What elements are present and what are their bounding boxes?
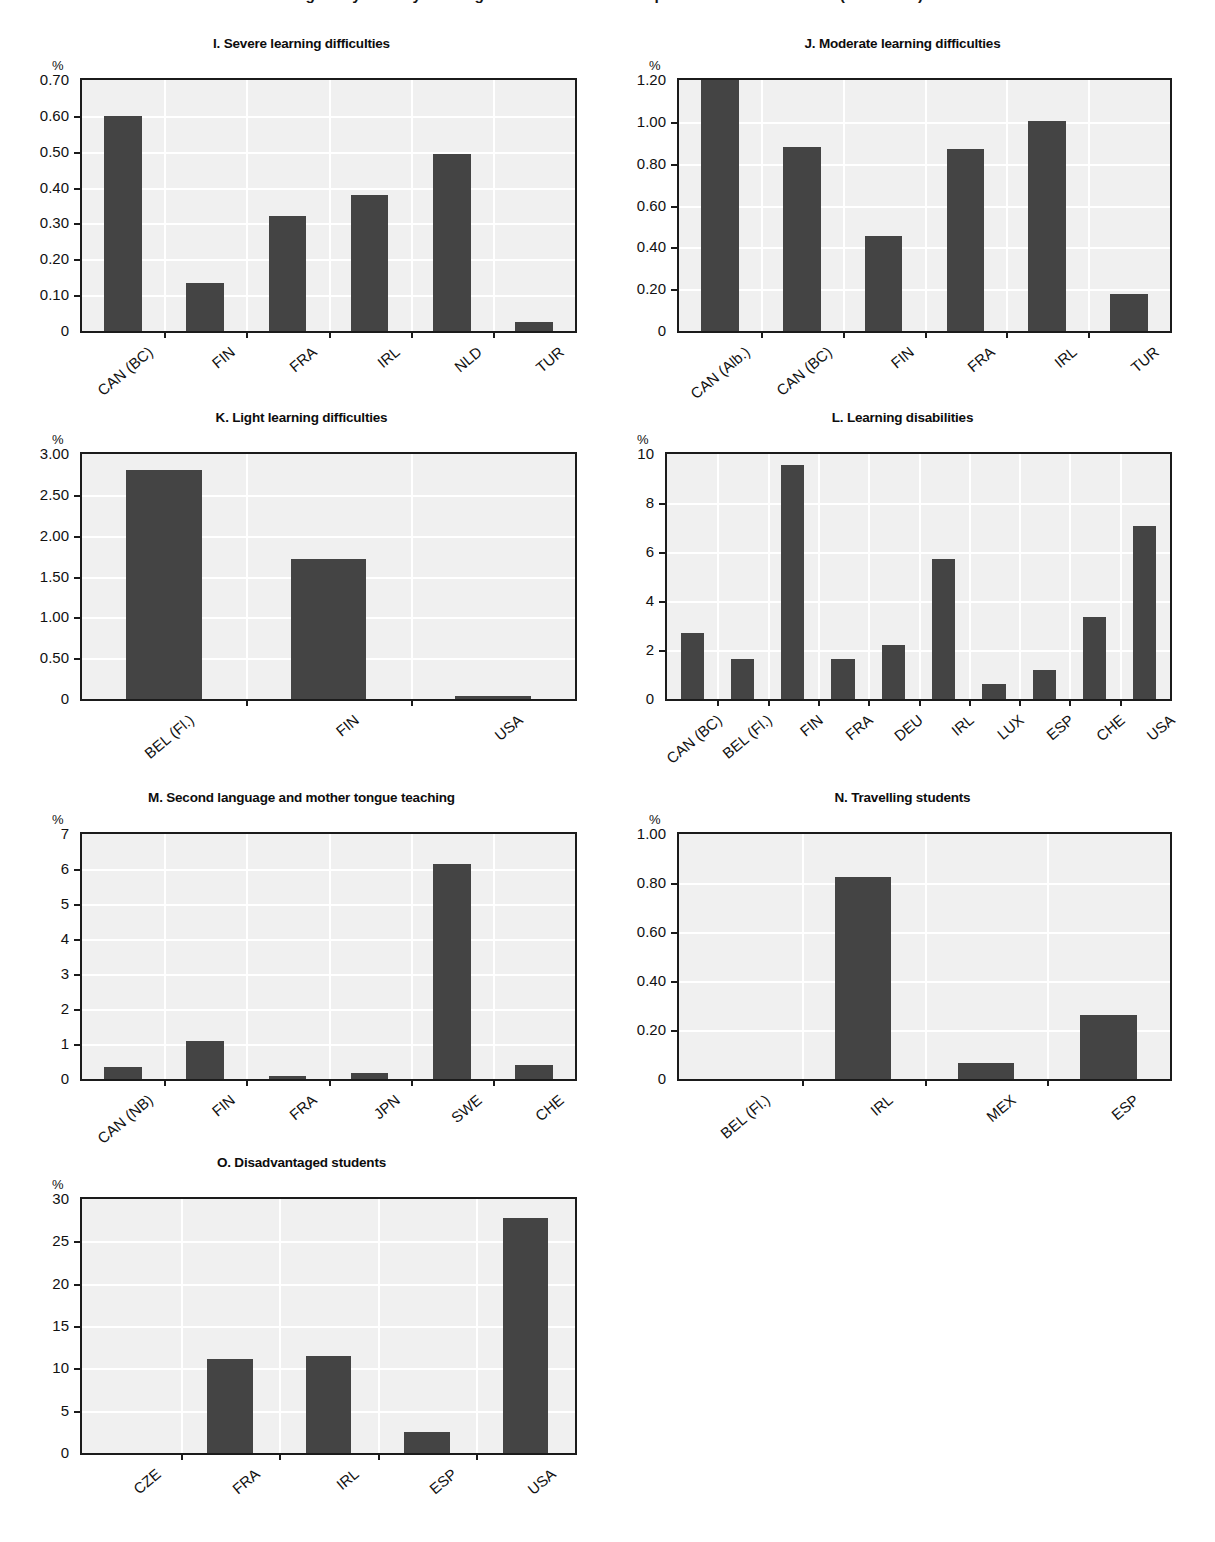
x-tick-label: FIN bbox=[796, 711, 825, 740]
bar bbox=[351, 1073, 389, 1079]
x-tick-label: IRL bbox=[374, 343, 403, 371]
y-tick bbox=[74, 1044, 82, 1046]
vertical-gridline bbox=[1088, 80, 1090, 331]
x-tick bbox=[843, 331, 845, 338]
vertical-gridline bbox=[411, 454, 413, 699]
y-tick-label: 3.00 bbox=[40, 445, 69, 462]
x-tick-label: BEL (Fl.) bbox=[720, 711, 776, 762]
chart-grid: I. Severe learning difficulties%00.100.2… bbox=[0, 0, 1215, 1542]
y-tick-label: 0.40 bbox=[40, 179, 69, 196]
bar bbox=[1133, 526, 1156, 699]
chart-title-k: K. Light learning difficulties bbox=[18, 410, 585, 425]
x-tick bbox=[868, 699, 870, 706]
y-tick-label: 0.20 bbox=[637, 1021, 666, 1038]
x-tick bbox=[329, 331, 331, 338]
x-tick bbox=[802, 1079, 804, 1086]
vertical-gridline bbox=[164, 834, 166, 1079]
bar bbox=[455, 696, 531, 699]
x-tick-label: TUR bbox=[532, 343, 567, 376]
gridline bbox=[82, 1284, 575, 1286]
x-tick bbox=[279, 1453, 281, 1460]
y-tick bbox=[74, 617, 82, 619]
y-tick bbox=[671, 289, 679, 291]
y-tick-label: 0.70 bbox=[40, 71, 69, 88]
vertical-gridline bbox=[279, 1199, 281, 1453]
y-tick-label: 1.00 bbox=[40, 608, 69, 625]
plot-area-i: 00.100.200.300.400.500.600.70CAN (BC)FIN… bbox=[80, 78, 577, 333]
y-tick-label: 0 bbox=[61, 1070, 69, 1087]
chart-title-m: M. Second language and mother tongue tea… bbox=[18, 790, 585, 805]
bar bbox=[433, 154, 471, 331]
plot-area-j: 00.200.400.600.801.001.20CAN (Alb.)CAN (… bbox=[677, 78, 1172, 333]
y-tick bbox=[74, 1411, 82, 1413]
y-tick bbox=[74, 1241, 82, 1243]
plot-area-k: 00.501.001.502.002.503.00BEL (Fl.)FINUSA bbox=[80, 452, 577, 701]
x-tick-label: FRA bbox=[964, 343, 998, 375]
plot-inner-o: 051015202530CZEFRAIRLESPUSA bbox=[82, 1199, 575, 1453]
x-tick-label: FRA bbox=[842, 711, 876, 743]
bar bbox=[269, 216, 307, 331]
x-tick-label: USA bbox=[1143, 711, 1178, 744]
x-tick bbox=[246, 331, 248, 338]
y-tick-label: 2 bbox=[646, 641, 654, 658]
vertical-gridline bbox=[493, 80, 495, 331]
x-tick-label: IRL bbox=[948, 711, 977, 739]
bar bbox=[433, 864, 471, 1079]
y-tick bbox=[74, 1368, 82, 1370]
x-tick bbox=[925, 1079, 927, 1086]
x-tick-label: FIN bbox=[887, 343, 916, 372]
vertical-gridline bbox=[246, 454, 248, 699]
y-tick-label: 0.80 bbox=[637, 874, 666, 891]
x-tick-label: ESP bbox=[1108, 1091, 1142, 1123]
x-tick-label: FRA bbox=[229, 1465, 263, 1497]
chart-title-i: I. Severe learning difficulties bbox=[18, 36, 585, 51]
bar bbox=[404, 1432, 449, 1453]
x-tick-label: CZE bbox=[130, 1465, 164, 1497]
y-tick-label: 0.20 bbox=[637, 280, 666, 297]
x-tick-label: IRL bbox=[867, 1091, 896, 1119]
y-tick-label: 1 bbox=[61, 1035, 69, 1052]
x-tick-label: BEL (Fl.) bbox=[141, 711, 197, 762]
vertical-gridline bbox=[717, 454, 719, 699]
bar bbox=[731, 659, 754, 699]
y-tick-label: 6 bbox=[61, 860, 69, 877]
x-tick bbox=[493, 331, 495, 338]
bar bbox=[186, 1041, 224, 1080]
vertical-gridline bbox=[843, 80, 845, 331]
vertical-gridline bbox=[1006, 80, 1008, 331]
y-tick bbox=[74, 495, 82, 497]
x-tick-label: NLD bbox=[451, 343, 485, 375]
y-tick bbox=[659, 650, 667, 652]
bar bbox=[269, 1076, 307, 1079]
x-tick-label: FIN bbox=[209, 343, 238, 372]
x-tick bbox=[1047, 1079, 1049, 1086]
plot-area-m: 01234567CAN (NB)FINFRAJPNSWECHE bbox=[80, 832, 577, 1081]
y-tick bbox=[659, 503, 667, 505]
y-tick-label: 30 bbox=[52, 1190, 69, 1207]
y-tick-label: 0.40 bbox=[637, 238, 666, 255]
y-tick-label: 0 bbox=[658, 1070, 666, 1087]
x-tick-label: IRL bbox=[333, 1465, 362, 1493]
x-tick-label: CAN (BC) bbox=[94, 343, 156, 399]
bar bbox=[1033, 670, 1056, 699]
plot-inner-k: 00.501.001.502.002.503.00BEL (Fl.)FINUSA bbox=[82, 454, 575, 699]
y-tick bbox=[74, 974, 82, 976]
vertical-gridline bbox=[329, 834, 331, 1079]
bar bbox=[781, 465, 804, 699]
y-tick-label: 1.00 bbox=[637, 825, 666, 842]
y-tick-label: 5 bbox=[61, 895, 69, 912]
x-tick bbox=[1120, 699, 1122, 706]
x-tick bbox=[164, 1079, 166, 1086]
bar bbox=[681, 633, 704, 699]
x-tick-label: ESP bbox=[1043, 711, 1077, 743]
x-tick-label: JPN bbox=[370, 1091, 403, 1122]
y-tick bbox=[74, 116, 82, 118]
bar bbox=[515, 322, 553, 331]
x-tick-label: BEL (Fl.) bbox=[717, 1091, 773, 1142]
y-tick bbox=[671, 122, 679, 124]
vertical-gridline bbox=[868, 454, 870, 699]
x-tick-label: CHE bbox=[532, 1091, 567, 1124]
y-tick bbox=[671, 247, 679, 249]
bar bbox=[783, 147, 821, 331]
x-tick-label: SWE bbox=[448, 1091, 485, 1126]
